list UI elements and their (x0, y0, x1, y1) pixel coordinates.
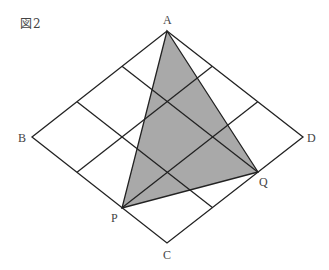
vertex-label-p: P (111, 211, 118, 225)
vertex-label-c: C (163, 248, 171, 262)
vertex-label-q: Q (259, 175, 268, 189)
vertex-label-d: D (307, 131, 316, 145)
vertex-label-b: B (18, 131, 26, 145)
rhombus-diagram: A B D C P Q (0, 0, 329, 270)
vertex-label-a: A (163, 13, 172, 27)
